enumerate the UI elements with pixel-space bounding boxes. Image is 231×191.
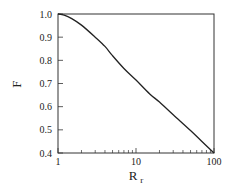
data-series-line — [58, 14, 214, 153]
x-axis-label-subscript: r — [140, 175, 143, 185]
y-tick-label: 0.5 — [40, 124, 53, 135]
y-tick-label: 0.4 — [40, 148, 53, 159]
line-chart: 110100 1.00.90.80.70.60.50.4 F Rr — [0, 0, 231, 191]
x-axis-label: Rr — [129, 168, 144, 185]
x-tick-label: 100 — [207, 156, 222, 167]
y-tick-label: 0.9 — [40, 32, 53, 43]
y-tick-label: 0.6 — [40, 101, 53, 112]
y-axis-label: F — [9, 80, 24, 87]
y-tick-label: 0.7 — [40, 78, 53, 89]
y-tick-label: 0.8 — [40, 55, 53, 66]
plot-frame — [58, 14, 214, 153]
x-tick-label: 10 — [131, 156, 141, 167]
x-tick-label: 1 — [56, 156, 61, 167]
y-tick-label: 1.0 — [40, 9, 53, 20]
y-axis-ticks: 1.00.90.80.70.60.50.4 — [40, 9, 64, 159]
x-axis-ticks: 110100 — [56, 148, 222, 167]
